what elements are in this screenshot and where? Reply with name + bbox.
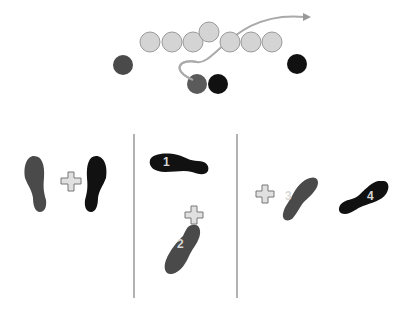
plus-icon bbox=[256, 185, 274, 203]
player-center-gray bbox=[187, 74, 207, 94]
arrowhead-icon bbox=[303, 13, 311, 21]
football-footwork-diagram: 1 2 3 4 bbox=[0, 0, 410, 314]
step-number-2: 2 bbox=[177, 237, 184, 251]
plus-icon bbox=[61, 172, 81, 191]
formation bbox=[113, 13, 311, 94]
player-right bbox=[287, 54, 307, 74]
step-number-4: 4 bbox=[367, 189, 374, 203]
footprint-step-4 bbox=[339, 181, 389, 214]
panel-stance bbox=[24, 156, 106, 212]
player-center-black bbox=[208, 74, 228, 94]
step-number-1: 1 bbox=[163, 155, 170, 169]
footprint-step-1 bbox=[150, 154, 209, 175]
plus-icon bbox=[185, 206, 203, 224]
left-footprint-icon bbox=[24, 156, 46, 212]
linemen bbox=[140, 22, 282, 52]
panel-steps-1-2: 1 2 bbox=[150, 154, 209, 274]
right-footprint-icon bbox=[85, 156, 107, 212]
step-number-3: 3 bbox=[285, 189, 292, 203]
panel-steps-3-4: 3 4 bbox=[256, 177, 388, 220]
player-left bbox=[113, 55, 133, 75]
